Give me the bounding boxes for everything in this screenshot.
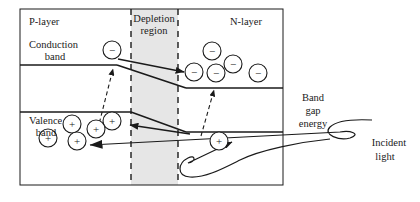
hole-carrier: +: [63, 115, 81, 133]
hole-carrier: +: [103, 112, 121, 130]
incident-light-label-line2: light: [375, 151, 394, 162]
electron-carrier-sign: −: [230, 58, 236, 70]
hole-carrier-sign: +: [74, 135, 80, 147]
conduction-band-label-line1: Conduction: [29, 39, 79, 50]
electron-carrier-sign: −: [209, 45, 215, 57]
hole-carrier-sign: +: [216, 135, 222, 147]
valence-band-label-line2: band: [36, 127, 57, 138]
hole-carrier-sign: +: [109, 115, 115, 127]
electron-carrier: −: [103, 41, 121, 59]
hole-carrier: +: [210, 132, 228, 150]
carrier-generation-arrow-n: [201, 90, 214, 136]
depletion-region-label-line2: region: [141, 25, 169, 36]
band-gap-energy-label-line3: energy: [299, 118, 328, 129]
electron-carrier-sign: −: [213, 67, 219, 79]
incident-light-arrow-lower: [180, 139, 330, 177]
electron-carrier-sign: −: [109, 44, 115, 56]
valence-band-label-line1: Valence: [29, 115, 63, 126]
p-layer-label: P-layer: [29, 16, 60, 27]
electron-carrier: −: [249, 64, 267, 82]
electron-carrier-sign: −: [255, 67, 261, 79]
electron-carrier: −: [224, 55, 242, 73]
electron-carrier-sign: −: [191, 66, 197, 78]
hole-carrier: +: [87, 120, 105, 138]
electron-carrier: −: [207, 64, 225, 82]
n-layer-label: N-layer: [230, 16, 263, 27]
band-gap-energy-label-line1: Band: [302, 92, 325, 103]
depletion-region-label-line1: Depletion: [133, 13, 175, 24]
conduction-band-label-line2: band: [45, 51, 66, 62]
hole-carrier: +: [68, 132, 86, 150]
electron-carrier: −: [203, 42, 221, 60]
hole-carrier-sign: +: [69, 118, 75, 130]
hole-carrier-sign: +: [93, 123, 99, 135]
incident-light-label-line1: Incident: [372, 137, 406, 148]
band-gap-energy-label-line2: gap: [305, 105, 320, 116]
band-diagram-figure: −−−−−−++++++ P-layer N-layer Depletion r…: [0, 0, 420, 202]
electron-carrier: −: [185, 63, 203, 81]
